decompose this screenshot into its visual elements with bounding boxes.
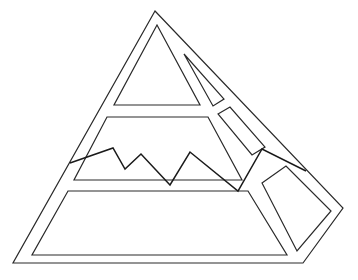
middle-band-panel xyxy=(74,117,242,180)
top-triangle-panel xyxy=(114,25,200,105)
bottom-band-panel xyxy=(32,191,287,255)
zigzag-mountain-line xyxy=(70,148,306,191)
pyramid-diagram xyxy=(0,0,358,280)
pyramid-outer-outline xyxy=(13,11,343,263)
